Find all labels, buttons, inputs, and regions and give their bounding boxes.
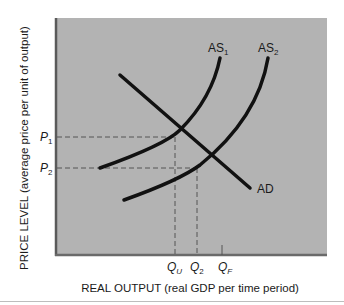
ad-as-chart: AS1 AS2 AD P1 P2 QU Q2 QF REAL OUTPUT (r… (0, 0, 344, 305)
qu-label: QU (167, 260, 182, 276)
ad-label: AD (257, 182, 274, 196)
x-axis-title: REAL OUTPUT (real GDP per time period) (81, 282, 299, 294)
y-axis-title: PRICE LEVEL (average price per unit of o… (18, 26, 30, 270)
p2-label: P2 (40, 161, 53, 177)
bottom-divider (0, 301, 344, 302)
p1-label: P1 (40, 130, 53, 146)
qf-label: QF (218, 260, 233, 276)
q2-label: Q2 (190, 260, 204, 276)
